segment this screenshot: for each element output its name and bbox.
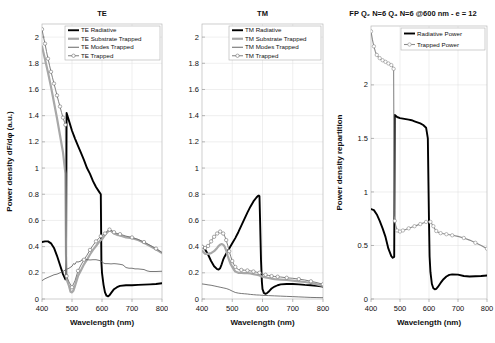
series-marker (392, 67, 395, 70)
y-tick-label: 0 (364, 295, 368, 304)
series-marker (55, 94, 58, 97)
y-tick-label: 0.2 (29, 268, 39, 277)
series-marker (424, 220, 427, 223)
series-marker (321, 283, 324, 286)
series-marker (240, 268, 243, 271)
y-tick-label: 0.5 (358, 241, 368, 250)
series-marker (439, 231, 442, 234)
series-marker (142, 240, 145, 243)
series-marker (474, 241, 477, 244)
y-tick-label: 1.8 (189, 59, 199, 68)
y-tick-label: 0.8 (189, 190, 199, 199)
series-marker (419, 222, 422, 225)
series-marker (372, 45, 375, 48)
legend-marker (408, 43, 411, 46)
legend-label: Trapped Power (417, 41, 459, 48)
series-marker (297, 277, 300, 280)
series-marker (88, 248, 91, 251)
series-marker (234, 265, 237, 268)
plot-panel-tm: TM40050060070080000.20.40.60.811.21.41.6… (166, 0, 331, 343)
x-tick-label: 500 (66, 304, 79, 313)
series-marker (206, 244, 209, 247)
y-tick-label: 1.6 (29, 85, 39, 94)
series-marker (231, 259, 234, 262)
x-tick-label: 400 (365, 304, 378, 313)
y-tick-label: 2 (35, 33, 39, 42)
y-tick-label: 0 (195, 295, 199, 304)
legend-label: TE Trapped (81, 52, 114, 59)
series-marker (130, 236, 133, 239)
series-marker (40, 28, 43, 31)
legend-label: TM Substrate Trapped (245, 35, 307, 42)
series-marker (375, 53, 378, 56)
x-tick-label: 700 (286, 304, 299, 313)
x-tick-label: 600 (96, 304, 109, 313)
series-marker (246, 269, 249, 272)
figure-container: TE40050060070080000.20.40.60.811.21.41.6… (0, 0, 495, 343)
chart-legend: TM RadiativeTM Substrate TrappedTM Modes… (229, 26, 321, 60)
series-marker (76, 269, 79, 272)
y-tick-label: 1.8 (29, 59, 39, 68)
y-tick-label: 0.6 (189, 216, 199, 225)
y-tick-label: 2 (364, 80, 368, 89)
chart-title: TM (257, 9, 268, 18)
x-axis-label: Wavelength (nm) (230, 318, 294, 327)
x-axis-label: Wavelength (nm) (397, 318, 461, 327)
series-marker (401, 229, 404, 232)
series-marker (61, 116, 64, 119)
x-tick-label: 400 (196, 304, 209, 313)
series-marker (43, 42, 46, 45)
series-marker (258, 271, 261, 274)
legend-label: Radiative Power (417, 30, 462, 37)
y-tick-label: 1.2 (29, 137, 39, 146)
series-marker (154, 247, 157, 250)
series-marker (49, 70, 52, 73)
series-marker (108, 228, 111, 231)
y-tick-label: 1 (364, 188, 368, 197)
y-tick-label: 0.2 (189, 268, 199, 277)
series-marker (407, 227, 410, 230)
plot-panel-fp: FP Q₂ N=6 Q₄ N=6 @600 nm - e = 124005006… (331, 0, 495, 343)
x-tick-label: 600 (256, 304, 269, 313)
series-marker (209, 240, 212, 243)
series-marker (82, 258, 85, 261)
chart-title: FP Q₂ N=6 Q₄ N=6 @600 nm - e = 12 (349, 9, 476, 18)
series-marker (390, 63, 393, 66)
series-layer (40, 28, 162, 297)
legend-label: TE Modes Trapped (81, 43, 134, 50)
series-marker (70, 286, 73, 289)
series-marker (252, 270, 255, 273)
x-tick-label: 500 (226, 304, 239, 313)
y-tick-label: 0.8 (29, 190, 39, 199)
series-marker (485, 247, 488, 250)
series-marker (94, 240, 97, 243)
legend-marker (72, 54, 75, 57)
chart-legend: TE RadiativeTE Substrate TrappedTE Modes… (65, 26, 160, 60)
legend-label: TM Trapped (245, 52, 279, 59)
legend-label: TE Substrate Trapped (81, 35, 142, 42)
x-tick-label: 700 (126, 304, 139, 313)
chart-te: TE40050060070080000.20.40.60.811.21.41.6… (0, 0, 168, 343)
series-marker (58, 105, 61, 108)
plot-panel-te: TE40050060070080000.20.40.60.811.21.41.6… (0, 0, 168, 343)
legend-label: TM Modes Trapped (245, 43, 299, 50)
chart-fp: FP Q₂ N=6 Q₄ N=6 @600 nm - e = 124005006… (331, 0, 495, 343)
series-marker (225, 238, 228, 241)
x-tick-label: 800 (481, 304, 494, 313)
legend-marker (236, 54, 239, 57)
series-marker (228, 250, 231, 253)
series-marker (103, 232, 106, 235)
y-tick-label: 0.4 (29, 242, 39, 251)
x-tick-label: 700 (452, 304, 465, 313)
series-marker (369, 30, 372, 33)
y-tick-label: 1.5 (358, 134, 368, 143)
series-marker (46, 57, 49, 60)
chart-tm: TM40050060070080000.20.40.60.811.21.41.6… (166, 0, 331, 343)
y-tick-label: 0.4 (189, 242, 199, 251)
series-marker (118, 232, 121, 235)
series-marker (264, 273, 267, 276)
y-tick-label: 0 (35, 295, 39, 304)
series-marker (285, 276, 288, 279)
series-marker (221, 232, 224, 235)
y-tick-label: 1 (35, 164, 39, 173)
